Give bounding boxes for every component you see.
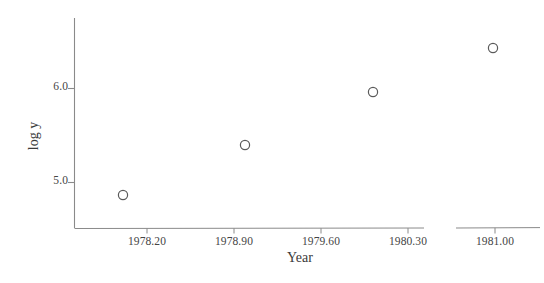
x-axis-line-left	[75, 228, 425, 229]
data-point-marker	[368, 87, 377, 96]
y-axis-title: log y	[26, 122, 42, 150]
data-point-marker	[488, 43, 497, 52]
data-point-marker	[118, 190, 127, 199]
x-tick-label-1981-00: 1981.00	[476, 235, 514, 247]
plot-canvas	[0, 0, 544, 283]
data-point-marker	[240, 140, 249, 149]
x-tick-label-1980-30: 1980.30	[389, 235, 427, 247]
scatter-plot-figure: 6.0 5.0 1978.20 1978.90 1979.60 1980.30 …	[0, 0, 544, 283]
y-tick-label-5: 5.0	[53, 174, 68, 186]
x-tick-label-1979-60: 1979.60	[302, 235, 340, 247]
y-tick-label-6: 6.0	[53, 80, 68, 92]
x-tick-label-1978-90: 1978.90	[215, 235, 253, 247]
x-axis-title: Year	[287, 250, 313, 266]
x-tick-label-1978-20: 1978.20	[128, 235, 166, 247]
